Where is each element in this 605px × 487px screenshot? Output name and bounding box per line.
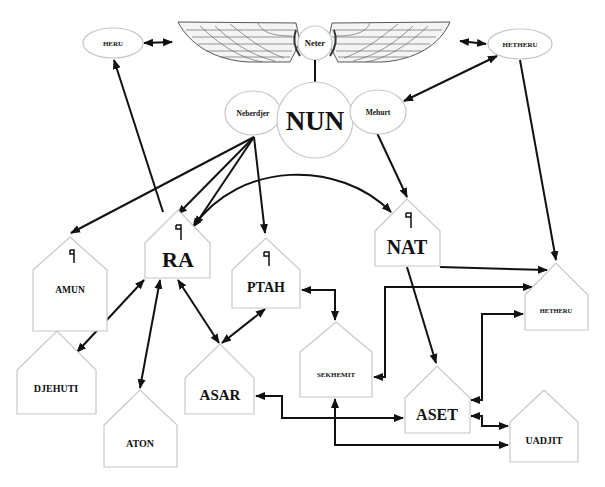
asar-label: ASAR (200, 387, 241, 403)
node-ptah[interactable]: PTAH (232, 238, 300, 308)
hetheru-top-label: HETHERU (502, 41, 537, 49)
heru-label: HERU (103, 40, 123, 48)
node-sekhemit[interactable]: SEKHEMIT (300, 322, 372, 397)
sekhemit-label: SEKHEMIT (317, 371, 355, 379)
edge-hetheru-hetheru-house (520, 60, 556, 260)
edge-sekhemit-hetheru-house (374, 287, 532, 377)
node-ra[interactable]: RA (145, 210, 210, 278)
edge-hetheru-mehurt (404, 56, 497, 101)
nun-label: NUN (286, 106, 345, 136)
edge-ptah-sekhemit (302, 290, 335, 320)
node-neberdjer[interactable]: Neberdjer (225, 91, 281, 135)
edge-nat-aset (407, 267, 436, 363)
neter-label: Neter (305, 38, 326, 48)
node-aset[interactable]: ASET (405, 366, 470, 433)
node-amun[interactable]: AMUN (33, 237, 107, 331)
edge-asar-aset (256, 396, 403, 418)
edge-nat-hetheru-house (440, 267, 547, 270)
edge-ra-aton (140, 280, 160, 388)
node-hetheru-house[interactable]: HETHERU (525, 263, 588, 330)
edge-neberdjer-amun (71, 137, 254, 233)
ra-label: RA (162, 247, 194, 272)
neberdjer-label: Neberdjer (237, 109, 271, 118)
aton-label: ATON (126, 438, 155, 449)
amun-label: AMUN (55, 285, 85, 295)
node-uadjit[interactable]: UADJIT (510, 390, 578, 462)
ptah-label: PTAH (247, 280, 285, 295)
edge-neter-hetheru (460, 41, 486, 44)
node-heru[interactable]: HERU (83, 28, 143, 58)
node-asar[interactable]: ASAR (185, 344, 254, 414)
node-nat[interactable]: NAT (375, 199, 440, 266)
edge-neberdjer-ptah (254, 137, 265, 233)
node-nun[interactable]: NUN (277, 82, 353, 158)
djehuti-label: DJEHUTI (34, 383, 79, 394)
nat-label: NAT (387, 236, 428, 258)
edge-neberdjer-ra-2 (195, 137, 254, 225)
edge-ra-asar (178, 280, 219, 343)
edge-aset-uadjit (471, 416, 508, 426)
edge-ptah-asar (222, 309, 265, 343)
node-hetheru-top[interactable]: HETHERU (488, 29, 552, 59)
edge-aset-hetheru-house (471, 314, 523, 400)
node-aton[interactable]: ATON (104, 390, 177, 467)
uadjit-label: UADJIT (525, 435, 563, 446)
aset-label: ASET (416, 406, 458, 423)
edge-heru-neter (144, 42, 172, 43)
node-mehurt[interactable]: Mehurt (350, 90, 406, 134)
diagram-canvas: Neter (0, 0, 605, 487)
mehurt-label: Mehurt (366, 108, 391, 117)
edge-mehurt-nat (377, 133, 407, 197)
hetheru-house-label: HETHERU (540, 307, 573, 314)
